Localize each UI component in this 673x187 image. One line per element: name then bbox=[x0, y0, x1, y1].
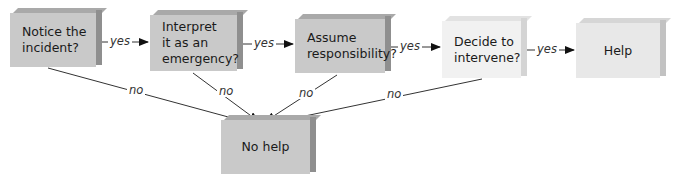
node-label: Notice the incident? bbox=[10, 24, 86, 56]
node-no-help: No help bbox=[221, 120, 310, 174]
node-notice-incident: Notice the incident? bbox=[10, 13, 96, 67]
node-label: Help bbox=[576, 43, 660, 59]
node-decide-intervene: Decide to intervene? bbox=[442, 21, 521, 78]
node-help: Help bbox=[576, 23, 660, 78]
node-label: Interpret it as an emergency? bbox=[150, 19, 239, 67]
edge-label-yes: yes bbox=[108, 35, 132, 47]
node-label: Decide to intervene? bbox=[442, 34, 520, 66]
edge-label-yes: yes bbox=[252, 37, 276, 49]
edge-label-yes: yes bbox=[535, 43, 559, 55]
node-interpret-emergency: Interpret it as an emergency? bbox=[150, 15, 237, 71]
no-arrows bbox=[48, 68, 482, 121]
node-label: No help bbox=[221, 139, 310, 155]
edge-label-no: no bbox=[127, 84, 145, 96]
edge-label-no: no bbox=[297, 87, 315, 99]
edge-label-no: no bbox=[217, 85, 235, 97]
edge-label-yes: yes bbox=[398, 40, 422, 52]
node-assume-responsibility: Assume responsibility? bbox=[295, 19, 385, 73]
flowchart: yes yes yes yes no no no no Notice the i… bbox=[0, 0, 673, 187]
edge-label-no: no bbox=[385, 88, 403, 100]
node-label: Assume responsibility? bbox=[295, 30, 397, 62]
